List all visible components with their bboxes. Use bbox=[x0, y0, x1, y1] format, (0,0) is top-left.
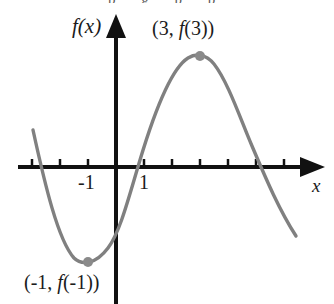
local-minimum-annotation: (-1, f(-1)) bbox=[24, 272, 100, 292]
annotation-min-suffix: (-1)) bbox=[63, 271, 100, 293]
function-graph-figure: p g p p f(x) x -1 1 bbox=[0, 0, 334, 304]
local-maximum-point bbox=[195, 51, 205, 61]
x-tick-label-positive-one: 1 bbox=[139, 172, 149, 192]
x-axis-arrowhead bbox=[300, 157, 325, 177]
local-minimum-point bbox=[83, 257, 93, 267]
y-axis-label: f(x) bbox=[72, 16, 101, 37]
annotation-max-suffix: (3)) bbox=[184, 17, 214, 39]
y-axis-arrowhead bbox=[106, 14, 126, 38]
function-curve bbox=[33, 55, 296, 263]
annotation-max-prefix: (3, bbox=[152, 17, 179, 39]
graph-canvas bbox=[0, 0, 334, 304]
annotation-min-prefix: (-1, bbox=[24, 271, 57, 293]
x-axis-label: x bbox=[312, 176, 320, 195]
local-maximum-annotation: (3, f(3)) bbox=[152, 18, 214, 38]
x-tick-label-negative-one: -1 bbox=[78, 172, 95, 192]
